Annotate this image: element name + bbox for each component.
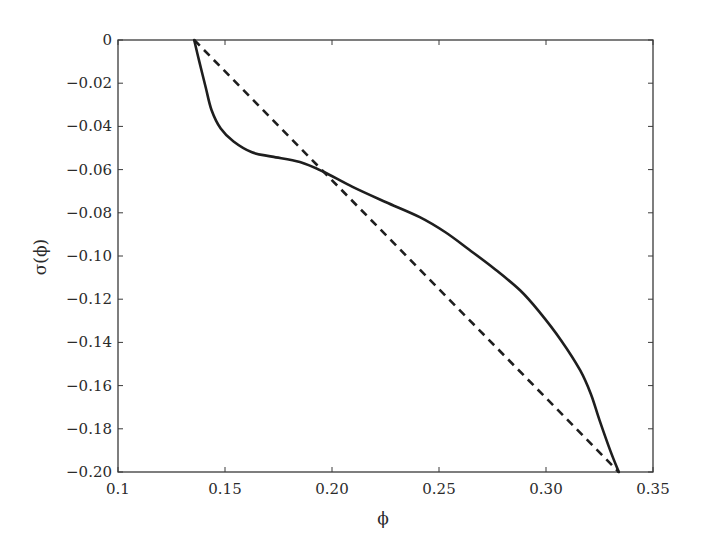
y-tick-label: −0.04	[66, 117, 112, 135]
x-tick-label: 0.25	[422, 480, 455, 498]
y-tick-label: −0.18	[66, 420, 112, 438]
y-tick-label: −0.06	[66, 161, 112, 179]
x-tick-label: 0.1	[106, 480, 130, 498]
x-axis-label: ϕ	[377, 508, 389, 528]
y-tick-label: −0.02	[66, 74, 112, 92]
y-tick-label: −0.16	[66, 377, 112, 395]
y-tick-label: −0.20	[66, 463, 112, 481]
y-tick-label: −0.14	[66, 333, 112, 351]
x-tick-label: 0.35	[636, 480, 669, 498]
y-tick-label: −0.10	[66, 247, 112, 265]
y-tick-label: −0.08	[66, 204, 112, 222]
axes-frame	[118, 40, 653, 472]
plot-area: 0.10.150.200.250.300.35 0−0.02−0.04−0.06…	[66, 31, 670, 498]
y-tick-labels: 0−0.02−0.04−0.06−0.08−0.10−0.12−0.14−0.1…	[66, 31, 112, 481]
x-tick-label: 0.30	[529, 480, 562, 498]
y-tick-label: 0	[102, 31, 112, 49]
axis-ticks	[118, 40, 653, 472]
x-tick-label: 0.15	[208, 480, 241, 498]
x-tick-label: 0.20	[315, 480, 348, 498]
x-tick-labels: 0.10.150.200.250.300.35	[106, 480, 670, 498]
dashed-reference-line	[194, 40, 619, 472]
y-tick-label: −0.12	[66, 290, 112, 308]
y-axis-label: σ(ϕ)	[30, 239, 50, 275]
chart: 0.10.150.200.250.300.35 0−0.02−0.04−0.06…	[0, 0, 701, 551]
